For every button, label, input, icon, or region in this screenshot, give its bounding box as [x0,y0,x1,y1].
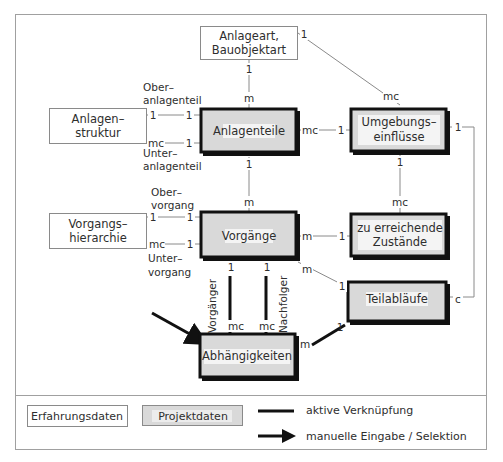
card-label: 1 [246,63,253,75]
role-untervorgang-line1: Unter– [148,252,182,264]
card-label: 1 [246,158,253,170]
card-label: mc [302,124,318,136]
entity-anlageart-line2: Bauobjektart [212,43,287,57]
card-label: 1 [150,109,157,121]
entity-anlagenstruktur-line1: Anlagen– [72,112,125,126]
role-unteranlagenteil-line2: anlagenteil [143,160,202,172]
card-label: m [302,263,312,275]
legend-manuelle-eingabe-label: manuelle Eingabe / Selektion [306,430,467,443]
card-label: 1 [228,261,235,273]
entity-anlageart[interactable]: Anlageart, Bauobjektart [201,27,298,60]
role-obervorgang-line2: vorgang [151,199,194,211]
card-label: c [455,293,461,305]
card-label: 1 [186,137,193,149]
card-label: 1 [186,109,193,121]
entity-teilablaeufe[interactable]: Teilabläufe [348,282,450,325]
entity-umgebungseinfluesse[interactable]: Umgebungs– einflüsse [351,109,450,155]
card-label: 1 [150,211,157,223]
card-label: 1 [397,156,404,168]
card-label: 1 [339,230,346,242]
card-label: 1 [264,261,271,273]
card-label: m [244,92,254,104]
entity-anlagenteile[interactable]: Anlagenteile [201,109,300,156]
role-obervorgang-line1: Ober– [151,186,182,198]
entity-vorgaenge[interactable]: Vorgänge [201,212,300,261]
entity-anlageart-line1: Anlageart, [219,29,279,43]
card-label: 1 [301,28,308,40]
entity-anlagenstruktur[interactable]: Anlagen– struktur [50,109,147,144]
entity-relationship-diagram: Anlageart, Bauobjektart Anlagen– struktu… [0,0,503,462]
entity-zustaende-line1: zu erreichende [357,221,443,235]
card-label: mc [383,90,399,102]
role-vorgaenger: Vorgänger [206,278,218,333]
legend-erfahrungsdaten: Erfahrungsdaten [28,406,128,427]
card-label: mc [148,137,164,149]
role-untervorgang-line2: vorgang [148,266,191,278]
card-label: 1 [337,321,344,333]
entity-vorgangshierarchie-line2: hierarchie [69,231,127,245]
entity-abhaengigkeiten-label: Abhängigkeiten [202,349,292,363]
entity-vorgangshierarchie[interactable]: Vorgangs– hierarchie [50,214,147,249]
entity-abhaengigkeiten[interactable]: Abhängigkeiten [200,334,299,381]
card-label: 1 [338,124,345,136]
entity-vorgangshierarchie-line1: Vorgangs– [68,217,127,231]
entity-teilablaeufe-label: Teilabläufe [365,292,428,306]
role-oberanlagenteil-line2: anlagenteil [143,94,202,106]
entity-anlagenteile-label: Anlagenteile [213,124,285,138]
role-oberanlagenteil-line1: Ober– [143,81,174,93]
entity-vorgaenge-label: Vorgänge [222,229,277,243]
entity-zustaende-line2: Zustände [373,235,427,249]
role-nachfolger: Nachfolger [277,275,289,333]
card-label: mc [259,320,275,332]
entity-umgebungseinfluesse-line1: Umgebungs– [362,115,437,129]
entity-anlagenstruktur-line2: struktur [75,126,121,140]
card-label: 1 [187,238,194,250]
legend-erfahrungsdaten-label: Erfahrungsdaten [31,410,123,423]
card-label: mc [228,320,244,332]
card-label: m [244,196,254,208]
card-label: mc [149,238,165,250]
legend-projektdaten: Projektdaten [143,406,243,426]
legend-projektdaten-label: Projektdaten [158,410,228,423]
entity-umgebungseinfluesse-line2: einflüsse [373,130,424,144]
legend-aktive-verknuepfung-label: aktive Verknüpfung [306,404,413,417]
card-label: 1 [187,211,194,223]
entity-zustaende[interactable]: zu erreichende Zustände [351,214,450,260]
card-label: m [302,230,312,242]
card-label: 1 [339,280,346,292]
card-label: m [300,338,310,350]
card-label: 1 [455,121,462,133]
card-label: mc [392,196,408,208]
